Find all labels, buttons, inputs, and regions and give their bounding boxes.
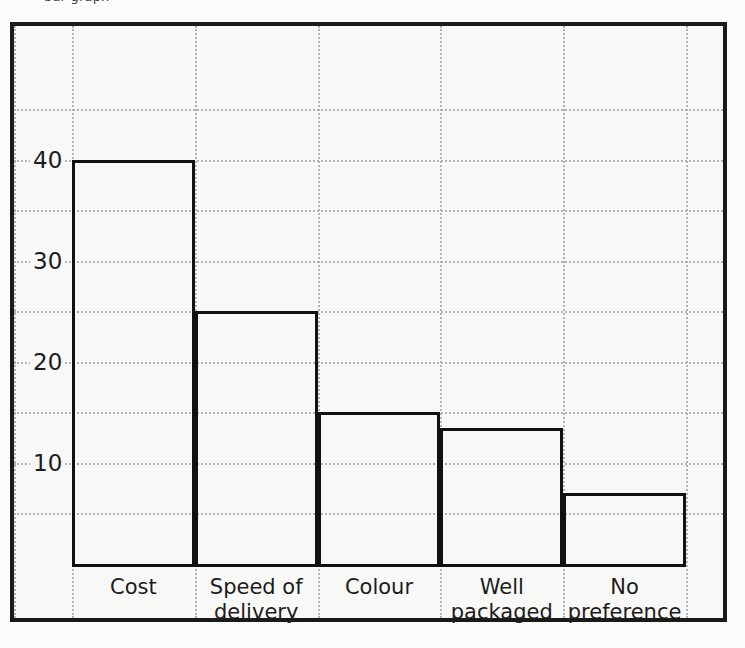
- x-axis-label-line: preference: [563, 600, 686, 625]
- x-axis-label-line: Colour: [318, 575, 441, 600]
- x-axis-label-line: delivery: [195, 600, 318, 625]
- x-axis-baseline: [72, 564, 686, 567]
- bar: [72, 160, 195, 564]
- y-axis-tick-label: 20: [30, 349, 65, 375]
- bar: [318, 412, 441, 564]
- x-axis-category-label: Wellpackaged: [440, 575, 563, 625]
- x-axis-label-line: No: [563, 575, 686, 600]
- bar: [195, 311, 318, 564]
- bar: [440, 428, 563, 564]
- y-axis-tick-label: 30: [30, 248, 65, 274]
- x-axis-label-line: Cost: [72, 575, 195, 600]
- x-axis-category-label: Cost: [72, 575, 195, 600]
- vertical-gridline: [14, 26, 16, 618]
- x-axis-label-line: Well: [440, 575, 563, 600]
- vertical-gridline: [686, 26, 688, 618]
- caption-remnant: bar graph: [0, 0, 745, 7]
- x-axis-label-line: packaged: [440, 600, 563, 625]
- horizontal-gridline: [14, 109, 723, 111]
- y-axis-tick-label: 10: [30, 450, 65, 476]
- bar-chart-figure: bar graph 10203040CostSpeed ofdeliveryCo…: [0, 0, 745, 648]
- x-axis-label-line: Speed of: [195, 575, 318, 600]
- y-axis-tick-label: 40: [30, 147, 65, 173]
- plot-area: 10203040CostSpeed ofdeliveryColourWellpa…: [14, 26, 723, 618]
- bar: [563, 493, 686, 564]
- chart-frame: 10203040CostSpeed ofdeliveryColourWellpa…: [10, 22, 727, 622]
- x-axis-category-label: Colour: [318, 575, 441, 600]
- x-axis-category-label: Nopreference: [563, 575, 686, 625]
- x-axis-category-label: Speed ofdelivery: [195, 575, 318, 625]
